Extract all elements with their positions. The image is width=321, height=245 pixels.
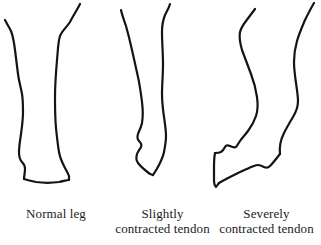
caption-slightly-line-2: contracted tendon xyxy=(110,221,215,236)
severely-leg-back-outline xyxy=(280,3,314,154)
slightly-leg-back-outline xyxy=(121,10,153,175)
severely-leg-hoof-sole xyxy=(219,154,280,183)
caption-severely-contracted-tendon: Severely contracted tendon xyxy=(212,206,321,236)
caption-slightly-line-1: Slightly xyxy=(110,206,215,221)
panel-normal-leg-drawing xyxy=(5,4,80,183)
normal-leg-hoof-sole xyxy=(24,179,69,183)
normal-leg-front-outline xyxy=(55,4,80,180)
severely-leg-hoof-toe xyxy=(214,153,219,187)
caption-normal-leg-line-1: Normal leg xyxy=(0,206,112,221)
panel-slightly-contracted-drawing xyxy=(121,4,170,175)
caption-severely-line-1: Severely xyxy=(212,206,321,221)
caption-severely-line-2: contracted tendon xyxy=(212,221,321,236)
caption-slightly-contracted-tendon: Slightly contracted tendon xyxy=(110,206,215,236)
slightly-leg-front-outline xyxy=(153,4,170,175)
panel-severely-contracted-drawing xyxy=(214,3,314,187)
caption-normal-leg: Normal leg xyxy=(0,206,112,221)
normal-leg-back-outline xyxy=(5,20,25,179)
figure-container: Normal leg Slightly contracted tendon Se… xyxy=(0,0,321,245)
severely-leg-front-outline xyxy=(215,9,258,153)
